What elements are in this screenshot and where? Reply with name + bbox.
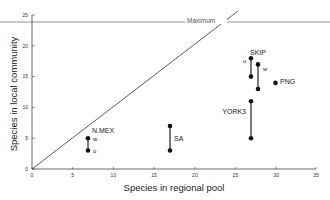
one-to-one-line [32,11,238,169]
series-york3: YORK3 [222,99,253,141]
data-point[interactable] [249,99,254,104]
x-tick-label: 0 [31,172,34,178]
x-tick-label: 30 [274,172,280,178]
data-point[interactable] [168,148,173,153]
x-tick-label: 35 [313,172,319,178]
y-ticks [32,15,35,169]
x-tick-label: 25 [233,172,239,178]
series-skip-w: w [256,62,268,91]
scatter-chart: 0 5 10 15 20 25 30 35 0 5 10 15 20 25 Ma… [0,0,330,200]
y-tick-label: 25 [22,12,28,18]
point-label: SA [174,135,184,142]
y-tick-label: 10 [22,104,28,110]
series-sa: SA [168,124,184,153]
point-sublabel: w [262,66,268,72]
y-tick-label: 0 [25,166,28,172]
series-skip-o: SKIP o [243,49,266,79]
point-label: SKIP [250,49,266,56]
y-tick-label: 20 [22,43,28,49]
x-tick-label: 10 [111,172,117,178]
data-point[interactable] [256,87,261,92]
y-axis-title: Species in local community [8,36,19,151]
data-point[interactable] [249,136,254,141]
point-sublabel: o [243,58,247,64]
point-label: PNG [280,78,295,85]
y-tick-labels: 0 5 10 15 20 25 [22,12,28,172]
y-tick-label: 15 [22,73,28,79]
data-point[interactable] [86,148,91,153]
series-png: PNG [273,78,295,85]
x-tick-label: 5 [71,172,74,178]
x-tick-labels: 0 5 10 15 20 25 30 35 [31,172,319,178]
point-label: YORK3 [222,108,246,115]
x-tick-label: 20 [192,172,198,178]
data-point[interactable] [168,124,173,129]
x-axis-title: Species in regional pool [124,182,225,193]
data-point[interactable] [86,136,91,141]
data-point[interactable] [249,74,254,79]
point-sublabel: w [92,136,98,142]
maximum-label: Maximum [187,17,215,24]
series-nmex: N.MEX w o [86,127,115,154]
x-tick-label: 15 [151,172,157,178]
data-point[interactable] [273,81,278,86]
point-sublabel: o [93,148,97,154]
y-tick-label: 5 [25,135,28,141]
data-point[interactable] [256,62,261,67]
data-point[interactable] [249,56,254,61]
point-label: N.MEX [92,127,115,134]
